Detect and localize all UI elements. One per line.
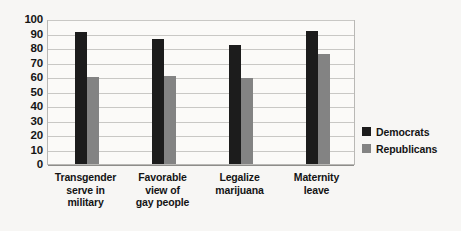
gridline-0 [48,165,354,166]
y-tick-label-20: 20 [0,130,43,141]
bar-democrats-1 [152,39,164,164]
x-axis-label-3: Maternityleave [269,171,365,196]
legend-label: Democrats [376,126,429,138]
x-axis-label-line: leave [269,184,365,197]
y-tick-label-30: 30 [0,116,43,127]
x-axis-label-line: Maternity [269,171,365,184]
bar-republicans-3 [318,54,330,164]
x-axis-label-line: gay people [115,196,211,209]
y-tick-label-100: 100 [0,14,43,25]
bar-democrats-3 [306,31,318,164]
y-tick-label-10: 10 [0,145,43,156]
bar-democrats-2 [229,45,241,164]
bar-chart: 1009080706050403020100 Transgenderserve … [0,0,461,231]
gridline-100 [48,20,354,21]
legend-item-democrats[interactable]: Democrats [362,124,460,139]
bar-republicans-2 [241,78,253,164]
y-tick-label-0: 0 [0,159,43,170]
bar-republicans-0 [87,77,99,164]
y-tick-label-40: 40 [0,101,43,112]
y-tick-label-60: 60 [0,72,43,83]
bar-democrats-0 [75,32,87,164]
legend-label: Republicans [376,143,437,155]
legend-swatch-icon [362,144,371,153]
plot-area [47,20,355,165]
y-tick-label-90: 90 [0,29,43,40]
y-tick-label-80: 80 [0,43,43,54]
legend-swatch-icon [362,127,371,136]
legend-item-republicans[interactable]: Republicans [362,141,460,156]
bar-republicans-1 [164,76,176,164]
y-tick-label-50: 50 [0,87,43,98]
y-tick-label-70: 70 [0,58,43,69]
chart-legend: DemocratsRepublicans [362,124,460,158]
